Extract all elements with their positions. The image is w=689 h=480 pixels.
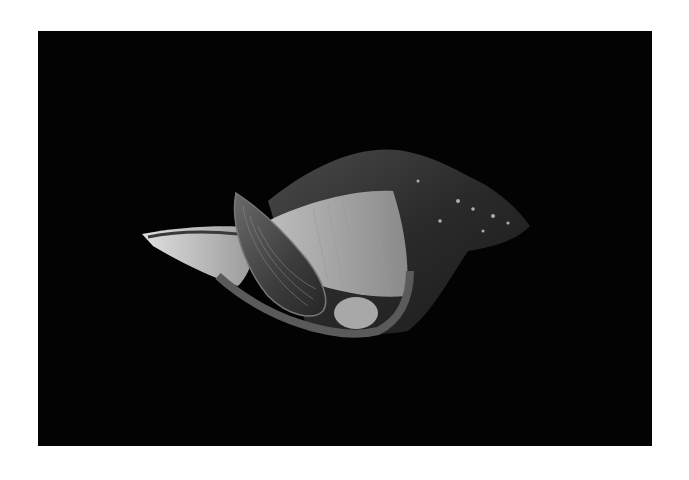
photo-frame [38, 31, 652, 446]
shell-illustration [38, 31, 652, 446]
